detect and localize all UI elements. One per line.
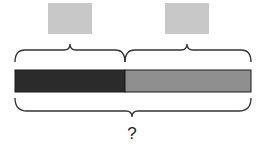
right-part-brace <box>125 44 251 62</box>
tape-diagram: ? <box>0 0 264 152</box>
total-brace <box>15 98 251 117</box>
left-part-brace <box>15 44 125 62</box>
gray-segment <box>125 70 251 92</box>
dark-segment <box>15 70 125 92</box>
total-unknown-label: ? <box>122 124 142 144</box>
